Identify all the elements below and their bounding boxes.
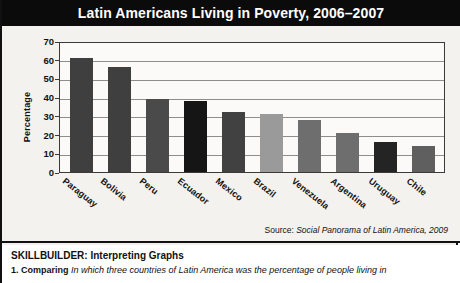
bar-series — [60, 43, 444, 172]
x-label-slot: Bolivia — [99, 174, 137, 220]
y-axis-tick-label: 20 — [28, 131, 54, 141]
x-label-slot: Paraguay — [61, 174, 99, 220]
bar-argentina — [336, 133, 359, 172]
question-number: 1. — [11, 265, 19, 275]
y-axis-tick-label: 70 — [28, 37, 54, 47]
y-axis-tick-labels: 706050403020100 — [24, 42, 54, 173]
y-axis-tick-label: 60 — [28, 56, 54, 66]
bar-slot — [100, 43, 138, 172]
x-label-slot: Uruguay — [367, 174, 405, 220]
x-axis-label-ecuador: Ecuador — [176, 176, 211, 206]
x-axis-label-brazil: Brazil — [252, 176, 278, 199]
skillbuilder-question-1: 1. Comparing In which three countries of… — [11, 265, 451, 276]
bar-slot — [404, 43, 442, 172]
x-axis-label-mexico: Mexico — [214, 176, 245, 203]
bar-peru — [146, 99, 169, 172]
bar-chile — [412, 146, 435, 172]
source-title: Social Panorama of Latin America, 2009 — [296, 225, 448, 235]
bar-slot — [62, 43, 100, 172]
y-axis-tick-label: 50 — [28, 75, 54, 85]
chart-panel: Percentage 706050403020100 ParaguayBoliv… — [2, 26, 460, 243]
x-axis-label-venezuela: Venezuela — [290, 176, 331, 211]
figure-title: Latin Americans Living in Poverty, 2006–… — [78, 5, 384, 21]
x-label-slot: Brazil — [252, 174, 290, 220]
bar-venezuela — [298, 120, 321, 172]
question-label: Comparing — [21, 265, 69, 275]
x-label-slot: Ecuador — [176, 174, 214, 220]
source-prefix: Source: — [265, 225, 297, 235]
skillbuilder-section: SKILLBUILDER: Interpreting Graphs 1. Com… — [2, 245, 460, 283]
x-axis-label-uruguay: Uruguay — [367, 176, 402, 207]
x-axis-category-labels: ParaguayBoliviaPeruEcuadorMexicoBrazilVe… — [59, 174, 445, 220]
skillbuilder-heading: SKILLBUILDER: Interpreting Graphs — [11, 250, 451, 261]
plot-area — [59, 42, 445, 173]
bar-slot — [252, 43, 290, 172]
x-axis-label-chile: Chile — [405, 176, 429, 198]
x-axis-label-paraguay: Paraguay — [61, 176, 100, 209]
bar-uruguay — [374, 142, 397, 172]
source-note: Source: Social Panorama of Latin America… — [265, 225, 448, 235]
bar-brazil — [260, 114, 283, 172]
x-label-slot: Chile — [405, 174, 443, 220]
bar-bolivia — [108, 67, 131, 172]
figure-title-bar: Latin Americans Living in Poverty, 2006–… — [2, 0, 460, 26]
bar-ecuador — [184, 101, 207, 172]
x-axis-label-peru: Peru — [137, 176, 159, 196]
bar-mexico — [222, 112, 245, 172]
y-axis-tick-label: 0 — [28, 168, 54, 178]
x-label-slot: Mexico — [214, 174, 252, 220]
x-label-slot: Peru — [137, 174, 175, 220]
question-text: In which three countries of Latin Americ… — [71, 265, 386, 275]
y-axis-tick-label: 40 — [28, 93, 54, 103]
x-axis-label-bolivia: Bolivia — [99, 176, 129, 202]
y-axis-tick-label: 30 — [28, 112, 54, 122]
x-label-slot: Venezuela — [290, 174, 328, 220]
x-axis-label-argentina: Argentina — [328, 176, 368, 210]
x-label-slot: Argentina — [328, 174, 366, 220]
bar-slot — [214, 43, 252, 172]
y-axis-tick-label: 10 — [28, 150, 54, 160]
bar-slot — [176, 43, 214, 172]
bar-slot — [366, 43, 404, 172]
bar-paraguay — [70, 58, 93, 172]
bar-slot — [328, 43, 366, 172]
bar-slot — [138, 43, 176, 172]
bar-slot — [290, 43, 328, 172]
